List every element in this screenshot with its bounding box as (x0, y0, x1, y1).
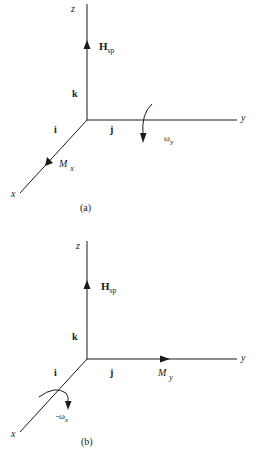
h-sp-arrow-icon (84, 280, 91, 289)
unit-vector-i: i (54, 125, 57, 135)
z-axis-label: z (76, 241, 80, 251)
unit-vector-j: j (110, 368, 113, 378)
moment-m-y-label: My (158, 368, 173, 382)
y-axis-label: y (241, 113, 245, 123)
panel-b-caption: (b) (81, 437, 93, 447)
panel-a-axes (20, 4, 237, 193)
gyroscope-axes-diagram (0, 0, 262, 456)
m-y-arrow-icon (160, 356, 170, 363)
h-sp-label: Hsp (101, 281, 116, 295)
moment-m-x-label: Mx (59, 159, 74, 173)
h-sp-arrow-icon (84, 40, 91, 49)
rate-minus-omega-x-label: -ωx (56, 412, 68, 424)
z-axis-label: z (71, 4, 75, 14)
minus-omega-x-arrowhead-icon (65, 401, 72, 410)
panel-a-caption: (a) (80, 203, 91, 213)
x-axis-label: x (11, 189, 15, 199)
unit-vector-i: i (54, 368, 57, 378)
y-axis-label: y (241, 353, 245, 363)
x-axis-label: x (11, 429, 15, 439)
unit-vector-k: k (72, 332, 78, 342)
omega-y-arrowhead-icon (140, 133, 147, 143)
rate-omega-y-label: ωy (164, 134, 173, 146)
unit-vector-k: k (72, 89, 78, 99)
panel-b-axes (20, 241, 237, 432)
h-sp-label: Hsp (99, 41, 114, 55)
unit-vector-j: j (110, 125, 113, 135)
